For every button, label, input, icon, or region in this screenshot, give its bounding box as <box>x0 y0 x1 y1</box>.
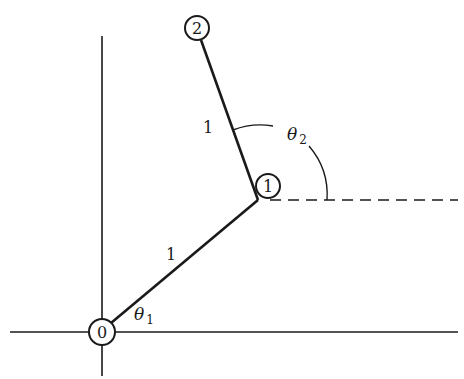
theta-2-arc <box>309 146 327 200</box>
theta-1-symbol: θ <box>134 304 144 324</box>
node-1-label: 1 <box>263 177 273 196</box>
node-0: 0 <box>89 319 115 345</box>
link-1-length-label: 1 <box>166 245 176 264</box>
node-2: 2 <box>185 16 209 40</box>
node-1: 1 <box>256 174 280 198</box>
node-2-label: 2 <box>192 19 202 38</box>
theta-2-label: θ2 <box>287 124 307 147</box>
theta-2-arc <box>233 125 273 130</box>
two-link-arm-diagram: 0 1 2 1 1 θ1 θ2 <box>0 0 464 379</box>
node-0-label: 0 <box>97 323 107 342</box>
theta-1-subscript: 1 <box>146 313 154 327</box>
link-2-length-label: 1 <box>203 118 213 137</box>
theta-2-subscript: 2 <box>299 133 307 147</box>
theta-2-symbol: θ <box>287 124 297 144</box>
theta-1-label: θ1 <box>134 304 154 327</box>
